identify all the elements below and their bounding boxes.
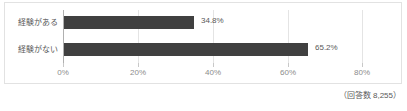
respondent-count-note: （回答数 8,255）	[339, 90, 401, 102]
bar-chart-figure: 34.8% 65.2% 経験がある 経験がない 0% 20% 40% 60% 8…	[0, 0, 407, 111]
category-label-keiken-ga-aru: 経験がある	[2, 16, 58, 29]
tick-label-60: 60%	[280, 67, 296, 78]
tick-label-80: 80%	[354, 67, 370, 78]
tick-label-0: 0%	[57, 67, 69, 78]
bar-value-label: 34.8%	[201, 14, 224, 27]
bar-value-label: 65.2%	[315, 41, 338, 54]
gridline-80	[362, 10, 363, 63]
tick-label-20: 20%	[130, 67, 146, 78]
bar-keiken-ga-nai	[63, 43, 308, 56]
x-axis-tick-labels: 0% 20% 40% 60% 80%	[0, 67, 407, 79]
bar-keiken-ga-aru	[63, 16, 194, 29]
y-axis-line	[63, 10, 64, 63]
category-label-keiken-ga-nai: 経験がない	[2, 43, 58, 56]
category-axis-labels: 経験がある 経験がない	[0, 10, 58, 63]
tick-label-40: 40%	[205, 67, 221, 78]
plot-area: 34.8% 65.2%	[63, 10, 363, 63]
